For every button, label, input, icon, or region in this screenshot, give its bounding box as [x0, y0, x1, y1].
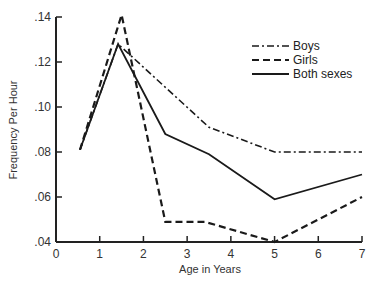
y-tick-label: .14 — [34, 10, 51, 24]
x-tick-label: 7 — [359, 247, 366, 261]
x-tick-label: 6 — [315, 247, 322, 261]
series-lines — [80, 15, 362, 242]
x-axis-title: Age in Years — [179, 263, 241, 275]
x-tick-label: 1 — [96, 247, 103, 261]
legend-label: Boys — [293, 39, 320, 53]
x-tick-label: 4 — [228, 247, 235, 261]
y-tick-label: .10 — [34, 100, 51, 114]
y-tick-label: .12 — [34, 55, 51, 69]
y-tick-label: .06 — [34, 190, 51, 204]
x-tick-label: 0 — [53, 247, 60, 261]
y-tick-label: .08 — [34, 145, 51, 159]
legend-label: Girls — [293, 53, 318, 67]
x-tick-label: 2 — [140, 247, 147, 261]
legend: BoysGirlsBoth sexes — [252, 39, 352, 81]
legend-label: Both sexes — [293, 67, 352, 81]
series-girls — [80, 15, 362, 242]
x-tick-label: 5 — [271, 247, 278, 261]
series-boys — [80, 44, 362, 152]
y-axis-title: Frequency Per Hour — [7, 80, 19, 179]
line-chart: .04.06.08.10.12.1401234567 BoysGirlsBoth… — [0, 0, 377, 287]
y-tick-label: .04 — [34, 235, 51, 249]
x-tick-label: 3 — [184, 247, 191, 261]
